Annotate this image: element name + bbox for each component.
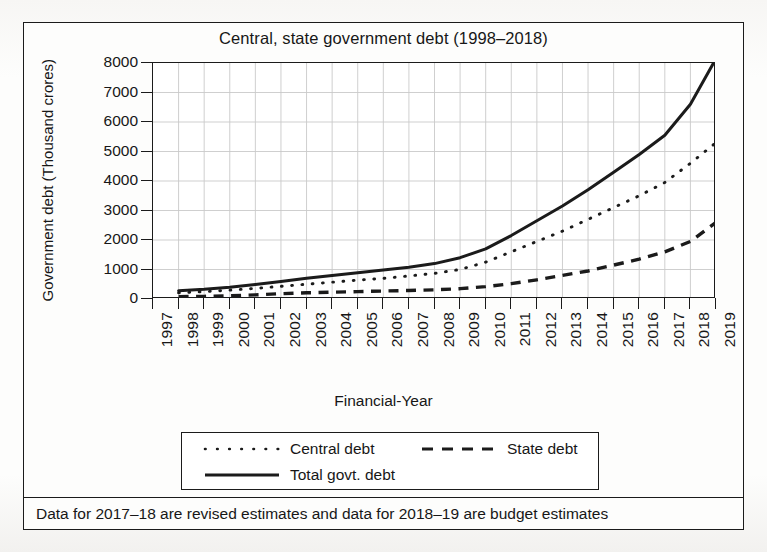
- plot-svg: [153, 63, 715, 298]
- y-tick-mark: [141, 210, 152, 211]
- y-axis-tick-group: 010002000300040005000600070008000: [0, 62, 152, 298]
- x-tick-label: 2014: [593, 312, 611, 347]
- x-tick-label: 2005: [363, 312, 381, 347]
- y-tick-label: 7000: [104, 83, 138, 101]
- legend-swatch-solid-icon: [203, 468, 281, 482]
- x-axis-title: Financial-Year: [23, 392, 744, 410]
- x-tick-label: 2009: [465, 312, 483, 347]
- x-tick-label: 2006: [388, 312, 406, 347]
- x-tick-mark: [229, 298, 230, 309]
- x-tick-mark: [536, 298, 537, 309]
- x-tick-mark: [178, 298, 179, 309]
- x-tick-mark: [485, 298, 486, 309]
- legend-swatch-dotted-icon: [203, 442, 281, 456]
- x-tick-label: 1998: [184, 312, 202, 347]
- x-tick-label: 2012: [542, 312, 560, 347]
- x-tick-label: 2013: [567, 312, 585, 347]
- x-tick-label: 1997: [158, 312, 176, 347]
- y-tick-mark: [141, 269, 152, 270]
- y-tick-label: 4000: [104, 171, 138, 189]
- y-tick-label: 5000: [104, 142, 138, 160]
- x-tick-label: 1999: [209, 312, 227, 347]
- y-tick-mark: [141, 62, 152, 63]
- x-tick-mark: [331, 298, 332, 309]
- legend-entry-central-debt: Central debt: [203, 436, 374, 462]
- x-tick-mark: [254, 298, 255, 309]
- x-tick-mark: [613, 298, 614, 309]
- x-tick-label: 2011: [516, 312, 534, 346]
- x-tick-mark: [689, 298, 690, 309]
- legend-row-top: Central debt State debt: [182, 436, 598, 462]
- footnote: Data for 2017–18 are revised estimates a…: [23, 497, 744, 530]
- y-tick-mark: [141, 92, 152, 93]
- legend-label-state-debt: State debt: [507, 440, 578, 458]
- plot-area: [152, 62, 715, 298]
- x-tick-mark: [357, 298, 358, 309]
- x-tick-label: 2000: [235, 312, 253, 347]
- x-tick-mark: [459, 298, 460, 309]
- x-axis-label-group: 1997199819992000200120022003200420052006…: [152, 312, 715, 386]
- legend-entry-state-debt: State debt: [420, 436, 578, 462]
- x-tick-label: 2008: [440, 312, 458, 347]
- x-tick-mark: [587, 298, 588, 309]
- x-tick-mark: [510, 298, 511, 309]
- plot-wrapper: [152, 62, 715, 298]
- x-tick-mark: [306, 298, 307, 309]
- x-axis-tick-group: [152, 298, 715, 312]
- x-tick-label: 2003: [312, 312, 330, 347]
- x-tick-mark: [152, 298, 153, 309]
- x-tick-mark: [434, 298, 435, 309]
- y-tick-mark: [141, 298, 152, 299]
- y-tick-mark: [141, 239, 152, 240]
- x-tick-label: 2017: [670, 312, 688, 347]
- legend: Central debt State debt Total govt. debt: [181, 432, 599, 490]
- chart-title: Central, state government debt (1998–201…: [23, 29, 744, 48]
- footnote-text: Data for 2017–18 are revised estimates a…: [23, 505, 608, 523]
- x-tick-label: 2004: [337, 312, 355, 347]
- x-tick-label: 2007: [414, 312, 432, 347]
- y-tick-label: 0: [129, 289, 138, 307]
- legend-swatch-dashed-icon: [420, 442, 498, 456]
- y-tick-label: 6000: [104, 112, 138, 130]
- x-tick-mark: [561, 298, 562, 309]
- legend-entry-total-govt-debt: Total govt. debt: [203, 462, 395, 488]
- x-tick-label: 2015: [619, 312, 637, 347]
- legend-label-total-govt-debt: Total govt. debt: [290, 466, 395, 484]
- legend-label-central-debt: Central debt: [290, 440, 374, 458]
- x-tick-label: 2018: [695, 312, 713, 347]
- x-tick-mark: [408, 298, 409, 309]
- y-tick-mark: [141, 180, 152, 181]
- x-tick-mark: [382, 298, 383, 309]
- y-tick-mark: [141, 121, 152, 122]
- x-tick-label: 2016: [644, 312, 662, 347]
- x-tick-label: 2019: [721, 312, 739, 347]
- y-tick-mark: [141, 151, 152, 152]
- x-tick-label: 2002: [286, 312, 304, 347]
- legend-row-bottom: Total govt. debt: [182, 462, 598, 488]
- x-tick-label: 2010: [491, 312, 509, 347]
- x-tick-mark: [280, 298, 281, 309]
- y-tick-label: 2000: [104, 230, 138, 248]
- x-tick-mark: [203, 298, 204, 309]
- y-tick-label: 8000: [104, 53, 138, 71]
- x-tick-mark: [638, 298, 639, 309]
- y-tick-label: 3000: [104, 201, 138, 219]
- x-tick-label: 2001: [260, 312, 278, 347]
- x-tick-mark: [664, 298, 665, 309]
- x-tick-mark: [715, 298, 716, 309]
- y-tick-label: 1000: [104, 260, 138, 278]
